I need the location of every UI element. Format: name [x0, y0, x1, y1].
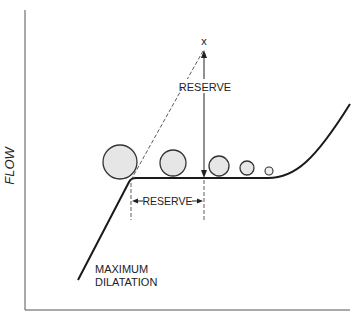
arrow-head-right-icon: [197, 199, 203, 204]
y-axis-label: FLOW: [2, 145, 17, 184]
vessel-circle-1: [103, 145, 137, 179]
arrow-head-down-icon: [201, 170, 207, 178]
vessel-circles: [103, 145, 273, 179]
vertical-reserve-label: RESERVE: [179, 81, 231, 93]
vessel-circle-5: [265, 167, 273, 175]
horizontal-reserve-label: RESERVE: [143, 195, 193, 207]
vessel-circle-2: [160, 150, 186, 176]
vessel-circle-4: [240, 161, 254, 175]
flow-curve: [78, 104, 350, 280]
arrow-head-left-icon: [132, 199, 138, 204]
max-dilatation-label-line2: DILATATION: [95, 276, 157, 288]
x-mark: x: [201, 35, 207, 47]
arrow-head-up-icon: [201, 50, 207, 58]
autoregulation-diagram: FLOW x RESERVE RESERVE MAXIMUM DILATATIO…: [0, 0, 356, 324]
vessel-circle-3: [209, 156, 229, 176]
max-dilatation-label-line1: MAXIMUM: [95, 263, 148, 275]
